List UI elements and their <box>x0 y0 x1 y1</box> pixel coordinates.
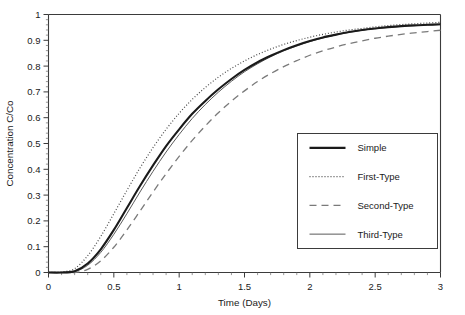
y-tick-label: 0.1 <box>27 241 40 252</box>
y-tick-label: 0.2 <box>27 215 40 226</box>
y-tick-label: 0.6 <box>27 112 40 123</box>
y-tick-label: 0.5 <box>27 138 40 149</box>
legend-label: Simple <box>358 142 387 153</box>
y-tick-label: 0.8 <box>27 61 40 72</box>
y-tick-label: 1 <box>35 9 40 20</box>
line-chart-canvas: 00.10.20.30.40.50.60.70.80.9100.511.522.… <box>0 0 465 315</box>
legend-label: Second-Type <box>358 200 414 211</box>
y-tick-label: 0.3 <box>27 190 40 201</box>
x-tick-label: 3 <box>438 281 443 292</box>
legend: SimpleFirst-TypeSecond-TypeThird-Type <box>298 134 438 249</box>
y-tick-label: 0.4 <box>27 164 40 175</box>
x-tick-label: 0 <box>46 281 51 292</box>
chart-figure: 00.10.20.30.40.50.60.70.80.9100.511.522.… <box>0 0 465 315</box>
y-axis-ticks: 00.10.20.30.40.50.60.70.80.91 <box>27 9 48 278</box>
y-tick-label: 0 <box>35 267 40 278</box>
x-tick-label: 1.5 <box>238 281 251 292</box>
x-tick-label: 0.5 <box>107 281 120 292</box>
y-axis-title: Concentration C/Co <box>4 100 15 187</box>
legend-label: Third-Type <box>358 229 403 240</box>
x-axis-title: Time (Days) <box>218 297 271 308</box>
y-tick-label: 0.7 <box>27 86 40 97</box>
y-tick-label: 0.9 <box>27 35 40 46</box>
legend-label: First-Type <box>358 171 400 182</box>
x-tick-label: 2.5 <box>369 281 382 292</box>
x-axis-ticks: 00.511.522.53 <box>46 273 443 292</box>
x-tick-label: 1 <box>177 281 182 292</box>
x-tick-label: 2 <box>307 281 312 292</box>
